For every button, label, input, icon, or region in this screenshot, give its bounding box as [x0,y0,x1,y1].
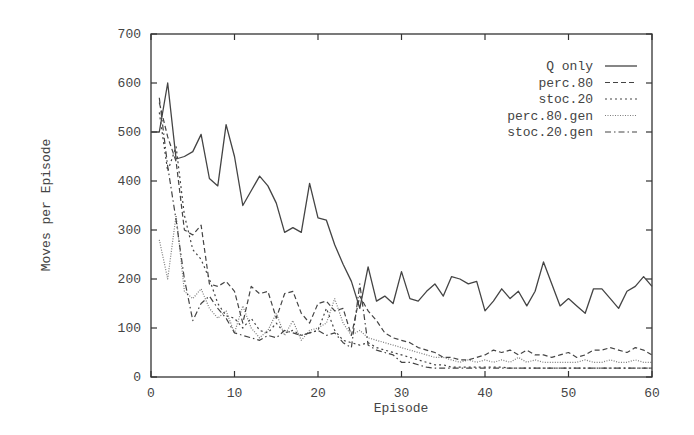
legend-label: perc.80.gen [507,109,593,124]
x-tick-label: 40 [477,386,493,401]
y-tick-label: 700 [118,27,141,42]
y-tick-label: 600 [118,76,141,91]
y-tick-label: 100 [118,321,141,336]
x-tick-label: 20 [310,386,326,401]
legend-label: Q only [546,59,593,74]
x-tick-label: 60 [644,386,660,401]
y-tick-label: 200 [118,272,141,287]
y-tick-label: 500 [118,125,141,140]
legend-item: perc.80.gen [507,109,637,124]
x-tick-label: 50 [561,386,577,401]
y-tick-label: 0 [133,370,141,385]
legend-label: stoc.20.gen [507,125,593,140]
x-tick-label: 30 [394,386,410,401]
legend-item: stoc.20.gen [507,125,637,140]
legend: Q onlyperc.80stoc.20perc.80.genstoc.20.g… [507,59,637,140]
y-tick-label: 400 [118,174,141,189]
line-chart: 0100200300400500600700 0102030405060 Epi… [0,0,694,435]
x-axis-tick-labels: 0102030405060 [147,386,660,401]
series-perc-80-gen [159,215,652,362]
legend-item: Q only [546,59,637,74]
legend-item: perc.80 [538,76,637,91]
y-tick-label: 300 [118,223,141,238]
x-axis-label: Episode [374,401,429,416]
legend-label: stoc.20 [538,92,593,107]
legend-item: stoc.20 [538,92,637,107]
legend-label: perc.80 [538,76,593,91]
y-axis-tick-labels: 0100200300400500600700 [118,27,141,385]
x-tick-label: 10 [227,386,243,401]
y-axis-label: Moves per Episode [39,139,54,272]
x-tick-label: 0 [147,386,155,401]
series-perc-80 [159,103,652,360]
